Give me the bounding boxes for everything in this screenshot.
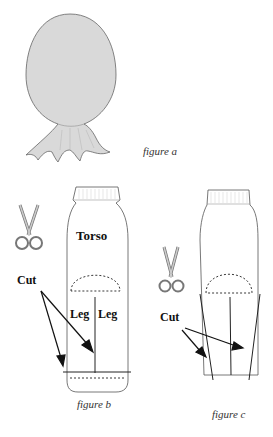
scissors-icon (16, 205, 42, 249)
figure-b-caption: figure b (77, 398, 111, 410)
figure-a-head (26, 14, 116, 162)
figure-c-caption: figure c (212, 408, 246, 420)
leg-right-label: Leg (98, 307, 117, 322)
torso-label: Torso (76, 228, 107, 244)
leg-left-label: Leg (70, 307, 89, 322)
figure-b-sock (63, 187, 131, 392)
cut-label-b: Cut (17, 273, 36, 288)
diagram-canvas (0, 0, 273, 437)
figure-c-sock (200, 190, 260, 380)
cut-label-c: Cut (160, 310, 179, 325)
figure-a-caption: figure a (143, 145, 177, 157)
scissors-icon (160, 247, 184, 292)
